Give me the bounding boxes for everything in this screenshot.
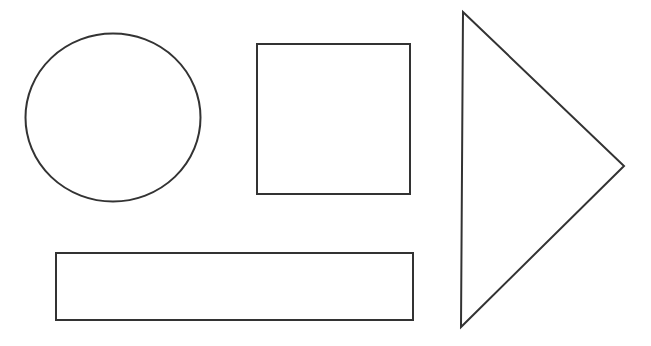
circle-shape	[26, 34, 201, 202]
diagram-canvas	[0, 0, 651, 346]
square-shape	[257, 44, 410, 194]
shapes-svg	[0, 0, 651, 346]
rectangle-shape	[56, 253, 413, 320]
triangle-shape	[461, 12, 624, 327]
